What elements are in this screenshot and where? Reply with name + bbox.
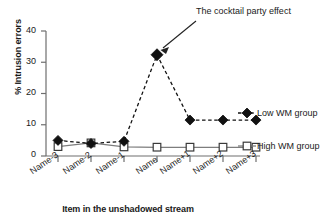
annotation-cocktail-party-effect: The cocktail party effect [196,6,291,16]
legend-label-high-wm-group: High WM group [257,141,320,151]
y-tick-label-0: 0 [16,149,36,159]
annotation-arrow [161,21,197,54]
legend-marker-low-wm-group [238,108,256,118]
x-axis-title: Item in the unshadowed stream [28,204,228,214]
series-line-low-wm-group [58,55,256,144]
chart-figure: 40 30 20 10 0 Name-3 Name-2 Name-1 Name … [0,0,327,222]
series-markers-high-wm-group [54,139,260,151]
y-axis-title: % Intrusion errors [13,2,23,112]
series-markers-low-wm-group [53,49,261,149]
y-tick-label-10: 10 [16,118,36,128]
legend-label-low-wm-group: Low WM group [257,108,318,118]
y-axis-ticks [41,31,46,156]
